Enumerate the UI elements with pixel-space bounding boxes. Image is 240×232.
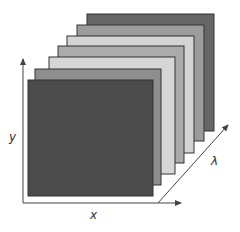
band-1-layer [28,80,153,196]
x-axis-label: x [90,209,97,221]
hyperspectral-cube-diagram [0,0,240,232]
spectral-band-layers [28,14,214,196]
y-axis-label: y [9,131,16,143]
lambda-axis-label: λ [211,155,218,167]
